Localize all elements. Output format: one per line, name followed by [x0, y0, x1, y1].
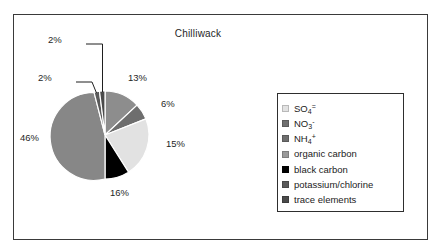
pie-chart: 2% 2% 13% 6% 15% 16% 46%	[26, 56, 201, 221]
chart-legend: SO4= NO3- NH4+ organic carbon black carb…	[277, 93, 404, 212]
pie-label-potassium-chlorine: 2%	[38, 72, 52, 83]
legend-item-black-carbon: black carbon	[282, 162, 403, 177]
legend-swatch-black-carbon	[282, 166, 289, 173]
pie-label-no3: 46%	[20, 132, 39, 143]
legend-item-so4: SO4=	[282, 101, 403, 116]
pie-label-organic-carbon: 13%	[128, 72, 147, 83]
legend-label-black-carbon: black carbon	[294, 165, 348, 175]
legend-item-nh4: NH4+	[282, 131, 403, 146]
legend-label-trace-elements: trace elements	[294, 195, 356, 205]
legend-swatch-nh4	[282, 135, 289, 142]
pie-slices	[50, 91, 149, 180]
pie-label-nh4: 6%	[161, 98, 175, 109]
legend-swatch-organic-carbon	[282, 151, 289, 158]
legend-item-potassium-chlorine: potassium/chlorine	[282, 177, 403, 192]
pie-label-trace-elements: 2%	[48, 34, 62, 45]
figure-root: Chilliwack	[0, 0, 441, 252]
legend-swatch-potassium-chlorine	[282, 181, 289, 188]
legend-swatch-no3	[282, 120, 289, 127]
legend-label-organic-carbon: organic carbon	[294, 149, 357, 159]
pie-label-black-carbon: 16%	[110, 187, 129, 198]
pie-slice-no3	[50, 92, 105, 180]
legend-label-so4: SO4=	[294, 103, 316, 115]
legend-swatch-so4	[282, 105, 289, 112]
legend-item-no3: NO3-	[282, 116, 403, 131]
legend-label-no3: NO3-	[294, 118, 315, 130]
chart-title: Chilliwack	[118, 28, 278, 39]
leader-line-potassium-chlorine	[76, 82, 97, 93]
legend-item-organic-carbon: organic carbon	[282, 147, 403, 162]
legend-label-potassium-chlorine: potassium/chlorine	[294, 180, 373, 190]
legend-item-trace-elements: trace elements	[282, 192, 403, 207]
legend-label-nh4: NH4+	[294, 133, 316, 145]
legend-swatch-trace-elements	[282, 196, 289, 203]
pie-label-so4: 15%	[166, 138, 185, 149]
